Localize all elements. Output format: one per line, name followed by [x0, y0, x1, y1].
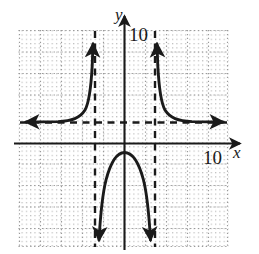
graph-figure: y 10 10 x: [0, 0, 259, 254]
x-axis-label: x: [233, 144, 241, 161]
y-axis-label: y: [115, 6, 123, 23]
x-axis-tick-label-10: 10: [203, 148, 222, 167]
y-axis-tick-label-10: 10: [129, 25, 148, 44]
